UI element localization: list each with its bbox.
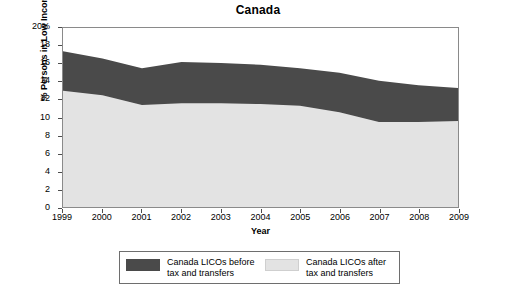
legend-label-after-tax-line1: Canada LICOs after bbox=[306, 257, 386, 267]
y-tick-label: 16 bbox=[10, 57, 50, 67]
legend-label-before-tax: Canada LICOs before tax and transfers bbox=[167, 257, 255, 278]
legend-label-after-tax-line2: tax and transfers bbox=[306, 268, 373, 278]
chart-legend: Canada LICOs before tax and transfers Ca… bbox=[119, 251, 400, 284]
x-tick-mark bbox=[221, 209, 222, 213]
area-chart-svg bbox=[63, 28, 458, 207]
x-tick-mark bbox=[419, 209, 420, 213]
x-tick-mark bbox=[102, 209, 103, 213]
x-tick-mark bbox=[261, 209, 262, 213]
legend-item-before-tax: Canada LICOs before tax and transfers bbox=[126, 257, 255, 278]
y-tick-label: 2 bbox=[10, 184, 50, 194]
y-tick-label: 20% bbox=[10, 21, 50, 31]
plot-area bbox=[62, 27, 459, 208]
y-tick-label: 10 bbox=[10, 112, 50, 122]
legend-swatch-before-tax bbox=[126, 259, 160, 271]
x-tick-label: 2009 bbox=[436, 212, 482, 222]
legend-item-after-tax: Canada LICOs after tax and transfers bbox=[265, 257, 386, 278]
legend-label-before-tax-line2: tax and transfers bbox=[167, 268, 234, 278]
chart-title: Canada bbox=[0, 3, 516, 17]
legend-label-before-tax-line1: Canada LICOs before bbox=[167, 257, 255, 267]
x-tick-mark bbox=[181, 209, 182, 213]
x-tick-mark bbox=[62, 209, 63, 213]
x-tick-mark bbox=[141, 209, 142, 213]
chart-container: Canada % Persons in Low Income 024681012… bbox=[0, 0, 516, 299]
y-tick-label: 8 bbox=[10, 130, 50, 140]
x-axis-title: Year bbox=[62, 226, 459, 236]
y-tick-label: 12 bbox=[10, 93, 50, 103]
x-tick-mark bbox=[380, 209, 381, 213]
y-tick-label: 4 bbox=[10, 166, 50, 176]
y-tick-label: 6 bbox=[10, 148, 50, 158]
x-tick-mark bbox=[459, 209, 460, 213]
legend-label-after-tax: Canada LICOs after tax and transfers bbox=[306, 257, 386, 278]
y-tick-label: 18 bbox=[10, 39, 50, 49]
x-tick-mark bbox=[340, 209, 341, 213]
x-tick-mark bbox=[300, 209, 301, 213]
y-tick-label: 0 bbox=[10, 202, 50, 212]
legend-swatch-after-tax bbox=[265, 259, 299, 271]
y-tick-label: 14 bbox=[10, 75, 50, 85]
